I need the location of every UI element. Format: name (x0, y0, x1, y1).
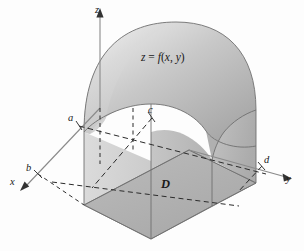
bound-label-c: c (148, 105, 153, 116)
surface-eq-close: ) (181, 51, 185, 63)
surface-eq-equals: = (145, 51, 157, 63)
bound-label-d: d (264, 155, 269, 166)
x-axis-arrow (20, 181, 29, 191)
surface-equation-label: z = f(x, y) (141, 52, 185, 64)
tick-a (76, 121, 82, 130)
axis-label-z: z (95, 5, 99, 16)
solid-under-surface-diagram (0, 0, 304, 251)
dashed-b-tick (38, 174, 84, 205)
axis-label-y: y (286, 174, 291, 185)
figure-canvas: z y x a b c d D z = f(x, y) (0, 0, 304, 251)
bound-label-a: a (68, 113, 73, 124)
region-label-D: D (161, 178, 170, 191)
axis-label-x: x (10, 177, 15, 188)
bound-label-b: b (26, 163, 31, 174)
